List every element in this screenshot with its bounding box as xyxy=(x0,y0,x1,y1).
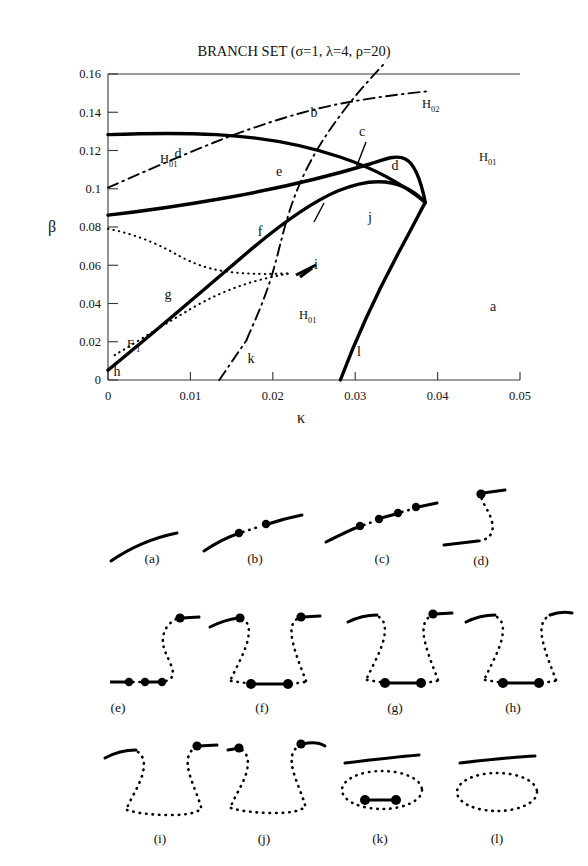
panel-f: (f) xyxy=(210,612,320,715)
region-label-h: h xyxy=(114,364,121,379)
y-tick-label-8: 0.16 xyxy=(79,67,101,81)
curve-label-h01-left-base: H xyxy=(160,152,169,166)
region-label-g: g xyxy=(165,287,172,302)
panel-i-caption: (i) xyxy=(154,831,167,846)
y-axis-label: β xyxy=(48,218,56,236)
panel-c: (c) xyxy=(326,503,437,566)
panel-d-caption: (d) xyxy=(473,553,489,568)
curve-label-f1-sub: 1 xyxy=(136,344,140,354)
panel-l: (l) xyxy=(457,756,537,846)
panel-b: (b) xyxy=(204,515,302,566)
panel-j-caption: (j) xyxy=(258,831,271,846)
panel-k-caption: (k) xyxy=(372,831,388,846)
x-tick-label-4: 0.04 xyxy=(427,389,450,403)
y-tick-label-1: 0.02 xyxy=(79,335,101,349)
panel-i: (i) xyxy=(105,741,217,846)
curve-label-h01-left-sub: 01 xyxy=(169,159,178,169)
x-tick-label-3: 0.03 xyxy=(344,389,366,403)
x-tick-label-2: 0.02 xyxy=(262,389,284,403)
y-tick-label-3: 0.06 xyxy=(79,259,101,273)
y-tick-label-2: 0.04 xyxy=(79,297,102,311)
panel-k-ellipse xyxy=(342,771,422,809)
curve-label-f1-base: F xyxy=(127,337,134,351)
x-tick-label-1: 0.01 xyxy=(179,389,201,403)
region-label-k: k xyxy=(248,351,255,366)
chart-title: BRANCH SET (σ=1, λ=4, ρ=20) xyxy=(198,43,391,60)
branch-set-figure: BRANCH SET (σ=1, λ=4, ρ=20) 0 0.02 0.04 … xyxy=(0,0,588,866)
panel-j: (j) xyxy=(228,739,325,846)
panel-c-node-3 xyxy=(394,509,402,517)
curve-f1-upper xyxy=(108,229,291,274)
region-label-d-right: d xyxy=(392,158,399,173)
y-tick-label-7: 0.14 xyxy=(79,106,102,120)
curve-label-h02: H 02 xyxy=(422,97,440,114)
curve-label-h02-sub: 02 xyxy=(431,104,440,114)
panel-d: (d) xyxy=(444,489,505,568)
panel-a: (a) xyxy=(111,533,177,566)
y-axis-ticks: 0 0.02 0.04 0.06 0.08 0.1 0.12 0.14 0.16 xyxy=(79,67,118,387)
curve-label-h01-mid-sub: 01 xyxy=(308,315,317,325)
panel-g: (g) xyxy=(348,609,452,715)
y-tick-label-5: 0.1 xyxy=(85,182,101,196)
panel-h-caption: (h) xyxy=(505,700,521,715)
region-label-e: e xyxy=(276,164,282,179)
panel-k-node-2 xyxy=(391,795,401,805)
curve-fold-lower xyxy=(108,157,425,215)
panel-b-node-1 xyxy=(235,529,243,537)
panel-f-caption: (f) xyxy=(255,700,269,715)
curve-label-h01-right-sub: 01 xyxy=(488,157,497,167)
x-axis-ticks: 0 0.01 0.02 0.03 0.04 0.05 xyxy=(105,372,531,403)
panel-e-node-3 xyxy=(158,678,166,686)
curve-labels: H 01 H 02 H 01 H 01 F 1 xyxy=(127,97,497,354)
y-tick-label-0: 0 xyxy=(95,373,101,387)
panel-e: (e) xyxy=(110,613,199,715)
panel-a-caption: (a) xyxy=(145,551,160,566)
panel-h: (h) xyxy=(466,612,572,715)
panel-c-node-1 xyxy=(356,522,364,530)
region-label-l: l xyxy=(357,344,361,359)
region-label-a: a xyxy=(490,299,497,314)
curve-label-h01-mid: H 01 xyxy=(299,308,317,325)
x-tick-label-0: 0 xyxy=(105,389,111,403)
region-label-c: c xyxy=(359,124,365,139)
curve-label-h01-right-base: H xyxy=(479,150,488,164)
x-tick-label-5: 0.05 xyxy=(509,389,531,403)
panel-l-caption: (l) xyxy=(491,831,504,846)
panel-c-caption: (c) xyxy=(375,551,390,566)
curve-fold-steep xyxy=(340,202,425,380)
panel-g-caption: (g) xyxy=(387,700,403,715)
panel-k: (k) xyxy=(342,755,422,846)
x-axis-label: κ xyxy=(297,409,305,426)
panel-b-caption: (b) xyxy=(247,551,263,566)
y-tick-label-4: 0.08 xyxy=(79,220,101,234)
region-label-j: j xyxy=(367,210,372,225)
region-label-f: f xyxy=(258,224,263,239)
curve-h01-lower xyxy=(219,340,246,380)
curve-label-h01-right: H 01 xyxy=(479,150,497,167)
panel-e-caption: (e) xyxy=(111,700,126,715)
y-tick-label-6: 0.12 xyxy=(79,144,101,158)
region-label-b: b xyxy=(311,105,318,120)
curve-label-h02-base: H xyxy=(422,97,431,111)
panel-l-ellipse xyxy=(457,773,537,811)
panel-f-node-tip xyxy=(235,613,244,622)
curve-label-h01-mid-base: H xyxy=(299,308,308,322)
